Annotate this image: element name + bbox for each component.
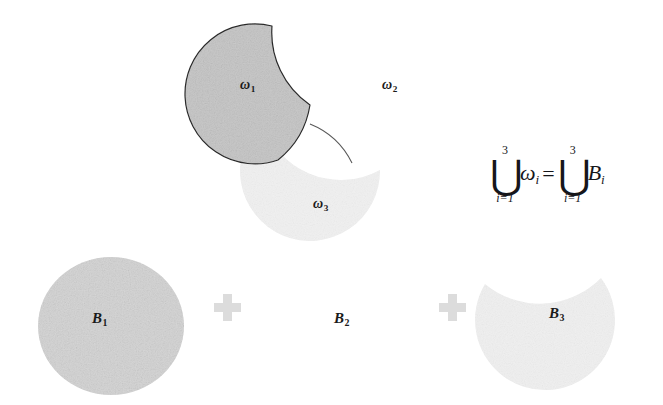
union-equation: 3 ⋃ i=1 ωi = 3 ⋃ i=1 Bi [490, 142, 650, 204]
b3-subscript: 3 [559, 312, 564, 323]
term-b3-shape [475, 278, 615, 390]
region-label-omega3: ω3 [313, 197, 328, 213]
union-operator-lhs: 3 ⋃ i=1 [490, 144, 520, 202]
region-omega1-shape [185, 24, 310, 164]
term-b1-shape [38, 257, 184, 395]
union-lhs-term: ωi [520, 160, 539, 188]
union-rhs-term-subscript: i [601, 172, 605, 187]
term-label-b1: B1 [92, 311, 107, 328]
b2-symbol: B [334, 310, 344, 326]
omega2-symbol: ω [382, 77, 392, 92]
union-rhs-term: Bi [588, 160, 605, 188]
union-lhs-lower-limit: i=1 [490, 192, 520, 204]
plus-operator-1-glyph [214, 294, 241, 321]
term-label-b2: B2 [334, 311, 349, 328]
omega1-subscript: 1 [250, 84, 255, 94]
b2-subscript: 2 [344, 317, 349, 328]
plus-operator-2-glyph [439, 294, 466, 321]
union-rhs-term-symbol: B [588, 160, 601, 185]
union-lhs-symbol: ⋃ [490, 156, 520, 196]
union-operator-rhs: 3 ⋃ i=1 [558, 144, 588, 202]
omega3-subscript: 3 [323, 203, 328, 213]
b1-symbol: B [92, 310, 102, 326]
region-label-omega2: ω2 [382, 78, 397, 94]
region-label-omega1: ω1 [240, 78, 255, 94]
union-rhs-lower-limit: i=1 [558, 192, 588, 204]
union-lhs-term-symbol: ω [520, 160, 536, 185]
b1-subscript: 1 [102, 317, 107, 328]
omega2-subscript: 2 [392, 84, 397, 94]
figure-canvas: ω1 ω2 ω3 B1 B2 B3 3 ⋃ i=1 ωi = 3 ⋃ i=1 [0, 0, 663, 405]
equals-sign: = [539, 161, 557, 187]
omega3-symbol: ω [313, 196, 323, 211]
union-rhs-symbol: ⋃ [558, 156, 588, 196]
omega1-symbol: ω [240, 77, 250, 92]
term-label-b3: B3 [549, 306, 564, 323]
b3-symbol: B [549, 305, 559, 321]
